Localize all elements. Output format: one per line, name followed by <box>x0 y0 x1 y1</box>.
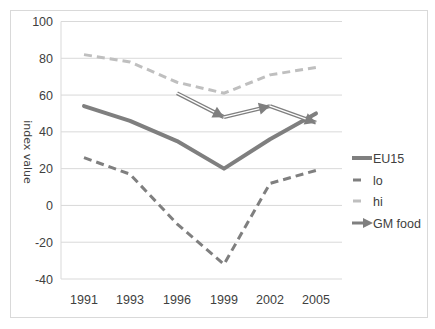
y-tick-label: -20 <box>35 236 53 250</box>
series-lines <box>84 55 316 265</box>
series-gm-food <box>177 93 316 124</box>
x-axis-ticks: 199119931996199920022005 <box>70 293 330 307</box>
x-tick-label: 1999 <box>210 293 238 307</box>
legend-label: EU15 <box>373 152 404 166</box>
series-eu15 <box>84 106 316 169</box>
y-tick-label: 20 <box>39 162 53 176</box>
series-hi <box>84 55 316 94</box>
y-axis-ticks: 100806040200-20-40 <box>32 15 53 287</box>
legend-label: hi <box>373 195 383 209</box>
legend-label: GM food <box>373 217 421 231</box>
y-tick-label: 60 <box>39 89 53 103</box>
arrow-icon <box>363 218 373 228</box>
line-chart: 100806040200-20-40 199119931996199920022… <box>0 0 435 329</box>
y-axis-label: index value <box>21 120 34 184</box>
y-tick-label: 0 <box>46 199 53 213</box>
series-lo <box>84 158 316 265</box>
gridlines <box>61 22 342 280</box>
x-tick-label: 1996 <box>163 293 191 307</box>
legend-label: lo <box>373 174 383 188</box>
x-tick-label: 2005 <box>302 293 330 307</box>
y-tick-label: 40 <box>39 125 53 139</box>
x-tick-label: 1993 <box>116 293 144 307</box>
y-axis-title: index value <box>21 120 34 184</box>
y-tick-label: -40 <box>35 273 53 287</box>
y-tick-label: 100 <box>32 15 53 29</box>
legend: EU15lohiGM food <box>352 152 421 231</box>
x-tick-label: 1991 <box>70 293 98 307</box>
y-tick-label: 80 <box>39 52 53 66</box>
x-tick-label: 2002 <box>256 293 284 307</box>
